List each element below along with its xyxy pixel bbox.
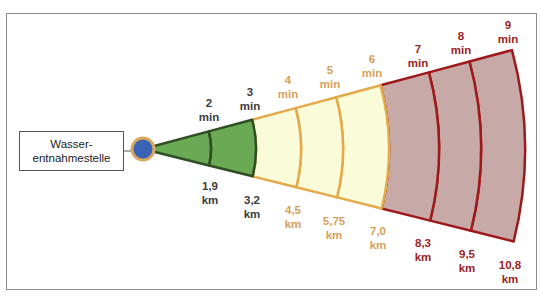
time-label-5min: 5min [320,63,340,91]
distance-label-4-5km: 4,5km [285,203,302,231]
time-label-7min: 7min [408,42,428,70]
zone-green-segment-3min [209,120,256,177]
water-source-dot-icon [132,138,154,160]
time-label-8min: 8min [451,29,471,57]
time-label-6min: 6min [362,52,382,80]
zone-yellow-segment-5min [296,97,343,197]
distance-label-10-8km: 10,8km [499,258,521,286]
distance-label-1-9km: 1,9km [202,179,219,207]
zone-yellow-segment-4min [252,108,301,187]
time-label-9min: 9min [498,18,518,46]
distance-label-8-3km: 8,3km [415,236,432,264]
time-label-2min: 2min [199,96,219,124]
time-label-3min: 3min [240,85,260,113]
distance-label-3-2km: 3,2km [244,193,261,221]
distance-label-5-75km: 5,75km [323,214,345,242]
distance-label-7-0km: 7,0km [370,224,387,252]
time-label-4min: 4min [278,73,298,101]
distance-label-9-5km: 9,5km [459,247,476,275]
